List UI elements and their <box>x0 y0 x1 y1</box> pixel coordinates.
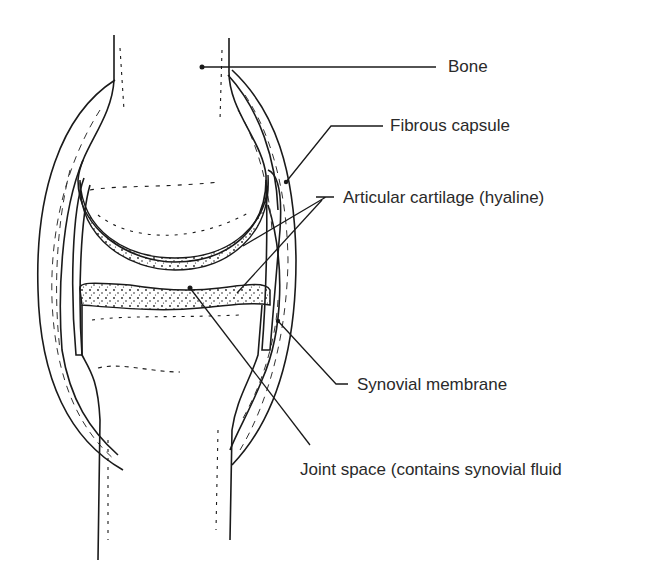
lower-bone-shape <box>80 283 270 560</box>
label-articular-cartilage: Articular cartilage (hyaline) <box>343 189 544 206</box>
label-synovial-membrane: Synovial membrane <box>357 376 507 393</box>
synovial-joint-illustration <box>0 0 670 573</box>
label-fibrous-capsule: Fibrous capsule <box>390 117 510 134</box>
label-joint-space: Joint space (contains synovial fluid <box>300 461 562 478</box>
label-bone: Bone <box>448 58 488 75</box>
upper-bone-shape <box>78 35 268 270</box>
